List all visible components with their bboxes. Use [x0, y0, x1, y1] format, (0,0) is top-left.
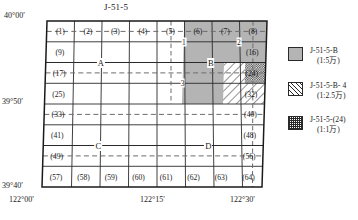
grid-cell-number: (25) — [52, 89, 65, 98]
check-swatch-icon — [288, 116, 303, 130]
grid-cell-number: (3) — [111, 27, 120, 36]
grid-cell-number: (41) — [51, 131, 64, 140]
grid-cell-number: (48) — [243, 131, 256, 140]
grid-cell-number: (17) — [53, 68, 66, 77]
grid-node-label-a: A — [97, 58, 105, 68]
grid-node-label-b: B — [207, 58, 215, 68]
grid-node-label-c: C — [94, 141, 102, 151]
grid-cell-number: (2) — [84, 27, 93, 36]
grid-cell-number: (61) — [160, 172, 173, 181]
legend-item: J-51-5-B- 4(1:2.5万) — [288, 81, 358, 102]
lon-right-label: 122°30′ — [230, 196, 255, 204]
gray-swatch-icon — [288, 47, 303, 61]
legend-item: J-51-5-B(1:5万) — [288, 46, 358, 67]
grid-cell-number: (62) — [187, 172, 200, 181]
grid-cell-number: (6) — [194, 27, 203, 36]
grid-cell-number: (24) — [245, 68, 258, 77]
legend-item: J-51-5-(24)(1:1万) — [288, 115, 358, 136]
grid-cell-number: (57) — [50, 172, 63, 181]
map-figure: J-51-5 40°00′ 39°50′ 39°40′ 122°00′ 122°… — [0, 0, 358, 220]
grid-cell-number: (4) — [139, 27, 148, 36]
lon-left-label: 122°00′ — [9, 196, 34, 204]
grid-cell-number: (1) — [56, 27, 65, 36]
grid-cell-number: (56) — [243, 151, 256, 160]
lat-top-left-label: 40°00′ — [4, 12, 25, 20]
grid-cell-number: (59) — [105, 172, 118, 181]
lat-bottom-left-label: 39°40′ — [2, 182, 23, 190]
hatch-swatch-icon — [288, 82, 303, 96]
legend: J-51-5-B(1:5万)J-51-5-B- 4(1:2.5万)J-51-5-… — [288, 46, 358, 150]
grid-cell-number: (33) — [52, 110, 65, 119]
page-title: J-51-5 — [104, 3, 128, 12]
grid-cell-number: (58) — [77, 172, 90, 181]
grid-sub-label-1: 1 — [182, 37, 187, 46]
grid-cell-number: (9) — [55, 48, 64, 57]
grid-cell-number: (8) — [249, 27, 258, 36]
grid-cell-number: (16) — [246, 48, 259, 57]
legend-scale: (1:2.5万) — [310, 91, 346, 101]
grid-cell-number: (40) — [244, 110, 257, 119]
grid-cell-number: (64) — [242, 172, 255, 181]
grid-cell-number: (60) — [132, 172, 145, 181]
grid-cell-number: (5) — [166, 27, 175, 36]
grid-node-label-d: D — [204, 141, 212, 151]
grid-cell-number: (49) — [50, 151, 63, 160]
legend-code: J-51-5-(24) — [310, 115, 346, 125]
grid-sub-label-3: 3 — [180, 79, 185, 88]
lat-mid-left-label: 39°50′ — [2, 98, 23, 106]
grid-cell-number: (32) — [245, 89, 258, 98]
legend-code: J-51-5-B- 4 — [310, 81, 346, 91]
grid-cell-number: (7) — [221, 27, 230, 36]
grid-cell-number: (63) — [215, 172, 228, 181]
grid-sub-label-2: 2 — [237, 37, 242, 46]
legend-scale: (1:5万) — [310, 56, 340, 66]
legend-scale: (1:1万) — [310, 125, 346, 135]
legend-code: J-51-5-B — [310, 46, 340, 56]
lon-mid-label: 122°15′ — [140, 196, 165, 204]
